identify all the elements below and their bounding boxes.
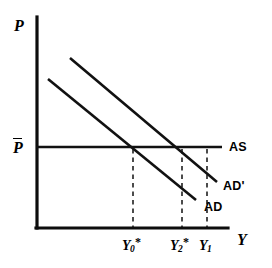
x-tick-sub-y1: 1	[207, 244, 212, 254]
x-tick-label-y1: Y1	[199, 236, 212, 255]
x-tick-star-y2: *	[183, 235, 189, 249]
price-level-symbol: P	[13, 139, 23, 157]
y-axis-label: P	[14, 18, 24, 34]
x-tick-star-y0: *	[135, 235, 141, 249]
diagram-canvas	[0, 0, 272, 268]
x-tick-label-y2: Y2*	[170, 236, 189, 255]
as-curve-label: AS	[229, 141, 247, 154]
x-tick-label-y0: Y0*	[122, 236, 141, 255]
ad-prime-curve	[70, 58, 217, 182]
ad-curve-label: AD	[204, 201, 222, 214]
price-level-label: P	[13, 139, 23, 157]
ad-curve	[48, 79, 196, 200]
ad-as-diagram: P Y P AS AD' AD Y0* Y2* Y1	[0, 0, 272, 268]
x-axis-label: Y	[237, 232, 247, 248]
ad-prime-curve-label: AD'	[223, 180, 245, 193]
